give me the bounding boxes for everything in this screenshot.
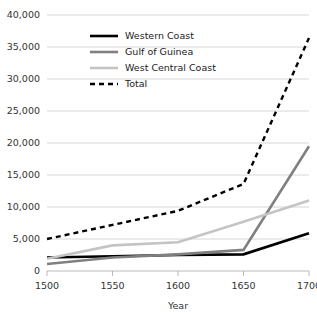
- x-axis-tick-label: 1700: [297, 280, 317, 291]
- y-axis-tick-label: 35,000: [7, 41, 40, 52]
- chart-canvas: 05,00010,00015,00020,00025,00030,00035,0…: [0, 0, 317, 325]
- x-axis-tick-label: 1500: [35, 280, 59, 291]
- legend-label-total: Total: [124, 78, 147, 89]
- legend: Western CoastGulf of GuineaWest Central …: [90, 30, 216, 89]
- legend-label-gulf-of-guinea: Gulf of Guinea: [125, 46, 193, 57]
- legend-label-western-coast: Western Coast: [125, 30, 194, 41]
- y-axis-tick-label: 15,000: [7, 169, 40, 180]
- y-axis-tick-label: 5,000: [13, 233, 40, 244]
- x-axis-title: Year: [167, 300, 188, 311]
- legend-label-west-central-coast: West Central Coast: [125, 62, 216, 73]
- line-chart: 05,00010,00015,00020,00025,00030,00035,0…: [0, 0, 317, 325]
- y-axis-tick-label: 25,000: [7, 105, 40, 116]
- y-axis-tick-label: 20,000: [7, 137, 40, 148]
- x-axis-tick-label: 1600: [166, 280, 190, 291]
- y-axis-tick-label: 0: [34, 265, 40, 276]
- y-axis-tick-label: 40,000: [7, 9, 40, 20]
- x-axis-tick-label: 1650: [231, 280, 255, 291]
- y-axis-tick-label: 30,000: [7, 73, 40, 84]
- y-axis-tick-label: 10,000: [7, 201, 40, 212]
- x-axis-tick-label: 1550: [100, 280, 124, 291]
- axes: 15001550160016501700Year: [35, 271, 317, 311]
